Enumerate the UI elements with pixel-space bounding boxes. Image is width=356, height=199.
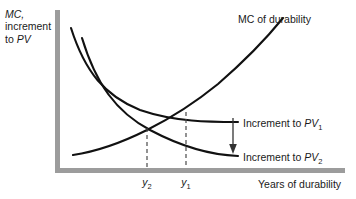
y-axis-title-to: to bbox=[5, 33, 17, 45]
y-axis-title: MC,incrementto PV bbox=[5, 8, 57, 45]
curve-increment-to-pv2 bbox=[82, 38, 238, 156]
durability-marginal-cost-chart: MC,incrementto PV MC of durability Incre… bbox=[0, 0, 356, 199]
x-tick-label-y1-subscript: 1 bbox=[187, 182, 191, 191]
pv1-symbol: PV bbox=[304, 117, 318, 129]
x-tick-label-y1: y1 bbox=[174, 176, 198, 189]
shift-arrow-head bbox=[229, 144, 237, 154]
y-axis-title-increment: increment bbox=[5, 20, 51, 32]
curve-label-increment-to-pv2: Increment to PV2 bbox=[243, 151, 322, 164]
x-axis-title: Years of durability bbox=[258, 178, 341, 190]
pv1-subscript: 1 bbox=[318, 123, 322, 132]
curve-label-mc-of-durability: MC of durability bbox=[238, 13, 311, 25]
curve-label-increment-to-pv1: Increment to PV1 bbox=[243, 117, 322, 130]
y-axis-title-pv: PV bbox=[17, 33, 31, 45]
pv2-symbol: PV bbox=[304, 151, 318, 163]
y-axis-title-mc: MC, bbox=[5, 8, 24, 20]
x-tick-label-y2: y2 bbox=[135, 176, 159, 189]
pv2-subscript: 2 bbox=[318, 157, 322, 166]
x-tick-label-y2-subscript: 2 bbox=[148, 182, 152, 191]
